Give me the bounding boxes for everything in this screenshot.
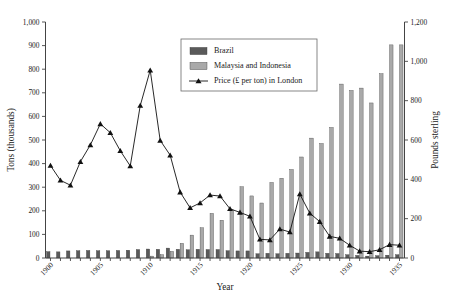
- bar-malaysia-and-indonesia-1932: [370, 103, 373, 258]
- bar-malaysia-and-indonesia-1918: [230, 210, 233, 258]
- legend-swatch-malaysia-and-indonesia: [190, 62, 207, 69]
- y-left-tick-label: 100: [28, 230, 39, 239]
- y-left-tick-label: 200: [28, 206, 39, 215]
- bar-malaysia-and-indonesia-1917: [220, 220, 223, 258]
- bar-brazil-1907: [116, 250, 119, 258]
- bar-brazil-1922: [266, 253, 269, 258]
- bar-malaysia-and-indonesia-1914: [190, 235, 193, 258]
- y-left-tick-label: 1,000: [23, 18, 40, 27]
- bar-brazil-1924: [286, 253, 289, 258]
- bar-malaysia-and-indonesia-1913: [180, 243, 183, 258]
- chart-legend: BrazilMalaysia and IndonesiaPrice (£ per…: [181, 39, 317, 91]
- legend-label-price-per-ton-in-london: Price (£ per ton) in London: [214, 76, 302, 85]
- bar-malaysia-and-indonesia-1934: [390, 45, 393, 258]
- legend-swatch-brazil: [190, 47, 207, 54]
- bar-malaysia-and-indonesia-1925: [300, 157, 303, 258]
- bar-malaysia-and-indonesia-1923: [280, 178, 283, 258]
- y-axis-left-title: Tons (thousands): [6, 108, 17, 172]
- bar-brazil-1900: [47, 252, 50, 258]
- y-left-tick-label: 0: [36, 254, 40, 263]
- bar-brazil-1923: [276, 254, 279, 258]
- bar-malaysia-and-indonesia-1933: [380, 74, 383, 258]
- bar-brazil-1902: [66, 251, 69, 258]
- bar-malaysia-and-indonesia-1929: [340, 84, 343, 258]
- bar-malaysia-and-indonesia-1919: [240, 187, 243, 258]
- rubber-production-chart: 01002003004005006007008009001,000 020040…: [0, 0, 450, 298]
- x-axis-title: Year: [216, 282, 234, 292]
- bar-malaysia-and-indonesia-1931: [360, 88, 363, 258]
- bar-malaysia-and-indonesia-1921: [260, 203, 263, 258]
- bar-brazil-1925: [296, 253, 299, 258]
- bar-brazil-1928: [326, 253, 329, 258]
- bar-brazil-1906: [106, 251, 109, 258]
- bar-brazil-1929: [336, 254, 339, 258]
- y-left-tick-label: 500: [28, 136, 39, 145]
- bar-brazil-1921: [256, 254, 259, 258]
- bar-brazil-1905: [96, 251, 99, 258]
- bar-malaysia-and-indonesia-1912: [170, 251, 173, 258]
- bar-malaysia-and-indonesia-1916: [210, 213, 213, 258]
- bar-brazil-1910: [146, 249, 149, 258]
- y-left-tick-label: 400: [28, 159, 39, 168]
- bar-brazil-1915: [196, 249, 199, 258]
- bar-malaysia-and-indonesia-1930: [350, 90, 353, 258]
- bar-malaysia-and-indonesia-1915: [200, 228, 203, 258]
- y-left-tick-label: 800: [28, 65, 39, 74]
- y-right-tick-label: 200: [411, 214, 422, 223]
- bar-brazil-1927: [316, 252, 319, 258]
- bar-brazil-1917: [216, 250, 219, 259]
- y-right-tick-label: 400: [411, 175, 422, 184]
- bar-brazil-1916: [206, 250, 209, 259]
- bar-brazil-1919: [236, 251, 239, 258]
- bar-malaysia-and-indonesia-1935: [400, 45, 403, 258]
- y-right-tick-label: 600: [411, 136, 422, 145]
- legend-label-malaysia-and-indonesia: Malaysia and Indonesia: [214, 61, 291, 70]
- legend-label-brazil: Brazil: [214, 46, 235, 55]
- y-axis-right-title: Pounds sterling: [430, 111, 440, 169]
- y-right-tick-label: 1,200: [411, 18, 428, 27]
- bar-malaysia-and-indonesia-1922: [270, 182, 273, 258]
- bar-malaysia-and-indonesia-1924: [290, 170, 293, 259]
- bar-brazil-1904: [86, 250, 89, 258]
- bar-brazil-1920: [246, 251, 249, 258]
- bar-brazil-1914: [186, 250, 189, 258]
- y-left-tick-label: 700: [28, 88, 39, 97]
- bar-malaysia-and-indonesia-1920: [250, 196, 253, 258]
- bar-brazil-1926: [306, 252, 309, 258]
- y-left-tick-label: 900: [28, 41, 39, 50]
- y-right-tick-label: 1,000: [411, 57, 428, 66]
- bar-brazil-1918: [226, 251, 229, 258]
- bar-brazil-1913: [176, 249, 179, 258]
- y-left-tick-label: 600: [28, 112, 39, 121]
- y-right-tick-label: 0: [411, 254, 415, 263]
- bar-brazil-1909: [136, 250, 139, 259]
- bar-malaysia-and-indonesia-1927: [320, 144, 323, 258]
- bar-malaysia-and-indonesia-1926: [310, 138, 313, 258]
- y-right-tick-label: 800: [411, 96, 422, 105]
- bar-brazil-1903: [76, 251, 79, 258]
- bar-brazil-1901: [56, 252, 59, 258]
- bar-brazil-1911: [156, 249, 159, 258]
- bar-brazil-1912: [166, 248, 169, 258]
- bar-brazil-1908: [126, 250, 129, 258]
- y-left-tick-label: 300: [28, 183, 39, 192]
- chart-figure: 01002003004005006007008009001,000 020040…: [0, 0, 450, 298]
